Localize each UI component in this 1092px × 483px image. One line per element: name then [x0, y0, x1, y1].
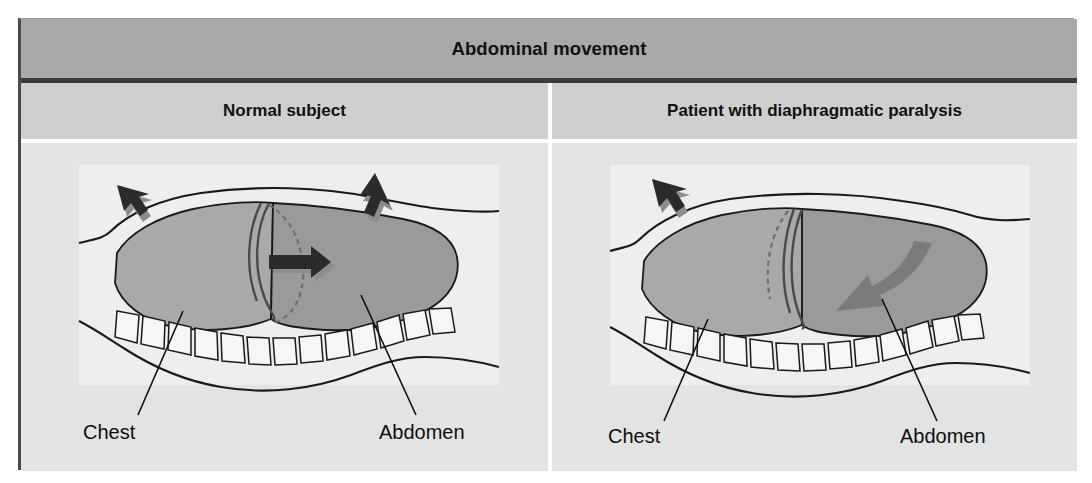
abdomen-label: Abdomen	[379, 421, 465, 443]
abdomen-label: Abdomen	[900, 425, 986, 447]
figure-container: Abdominal movement Normal subject Patien…	[18, 18, 1074, 470]
panel-diaphragmatic-paralysis: Chest Abdomen	[552, 143, 1077, 471]
paralysis-illustration: Chest Abdomen	[552, 143, 1077, 471]
column-header-diaphragmatic-paralysis: Patient with diaphragmatic paralysis	[552, 83, 1077, 139]
column-header-normal-subject: Normal subject	[21, 83, 548, 139]
panel-normal-subject: Chest Abdomen	[21, 143, 548, 471]
figure-title-band: Abdominal movement	[21, 19, 1077, 83]
chest-label: Chest	[83, 421, 136, 443]
figure-title: Abdominal movement	[21, 19, 1077, 78]
chest-label: Chest	[608, 425, 661, 447]
normal-subject-illustration: Chest Abdomen	[21, 143, 548, 471]
